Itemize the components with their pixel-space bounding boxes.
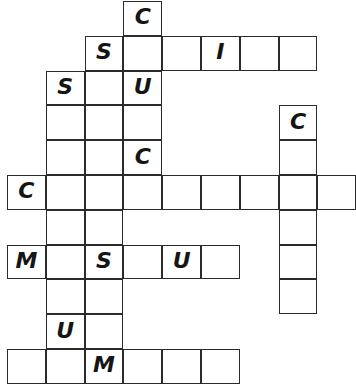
crossword-cell[interactable] <box>85 105 124 140</box>
crossword-cell-letter: S <box>57 76 73 98</box>
crossword-cell[interactable]: S <box>85 245 124 280</box>
crossword-cell-letter: M <box>93 354 115 376</box>
crossword-cell[interactable] <box>279 140 318 175</box>
crossword-cell[interactable] <box>85 71 124 106</box>
crossword-cell[interactable] <box>123 349 162 384</box>
crossword-cell[interactable]: M <box>85 349 124 384</box>
crossword-cell[interactable]: U <box>162 245 201 280</box>
crossword-cell[interactable] <box>85 140 124 175</box>
crossword-cell[interactable] <box>123 105 162 140</box>
crossword-cell[interactable] <box>123 245 162 280</box>
crossword-cell[interactable] <box>240 36 279 71</box>
crossword-cell-letter: U <box>56 320 74 342</box>
crossword-cell[interactable]: S <box>85 36 124 71</box>
crossword-cell[interactable] <box>123 36 162 71</box>
crossword-cell-letter: S <box>96 41 112 63</box>
crossword-cell[interactable] <box>85 314 124 349</box>
crossword-cell[interactable] <box>46 210 85 245</box>
crossword-cell[interactable]: C <box>7 175 46 210</box>
crossword-cell[interactable] <box>85 175 124 210</box>
crossword-cell-letter: C <box>135 146 151 168</box>
crossword-cell[interactable] <box>201 175 240 210</box>
crossword-cell-letter: S <box>96 250 112 272</box>
crossword-cell[interactable]: C <box>279 105 318 140</box>
crossword-cell[interactable] <box>317 175 356 210</box>
crossword-cell[interactable] <box>85 279 124 314</box>
crossword-cell[interactable]: I <box>201 36 240 71</box>
crossword-cell[interactable] <box>279 279 318 314</box>
crossword-cell[interactable] <box>85 210 124 245</box>
crossword-cell[interactable] <box>162 349 201 384</box>
crossword-cell[interactable] <box>46 279 85 314</box>
crossword-cell[interactable] <box>46 105 85 140</box>
crossword-cell[interactable] <box>279 175 318 210</box>
crossword-cell-letter: C <box>290 111 306 133</box>
crossword-cell[interactable] <box>201 349 240 384</box>
crossword-cell[interactable]: C <box>123 140 162 175</box>
crossword-cell[interactable]: M <box>7 245 46 280</box>
crossword-cell[interactable] <box>7 349 46 384</box>
crossword-cell-letter: U <box>134 76 152 98</box>
crossword-cell[interactable]: U <box>123 71 162 106</box>
crossword-cell[interactable] <box>46 349 85 384</box>
crossword-cell[interactable] <box>123 175 162 210</box>
crossword-cell[interactable]: U <box>46 314 85 349</box>
crossword-cell[interactable] <box>46 175 85 210</box>
crossword-cell[interactable] <box>279 36 318 71</box>
crossword-cell-letter: C <box>135 6 151 28</box>
crossword-cell[interactable] <box>162 36 201 71</box>
crossword-cell-letter: U <box>173 250 191 272</box>
crossword-cell[interactable] <box>201 245 240 280</box>
crossword-cell-letter: M <box>15 250 37 272</box>
crossword-cell[interactable] <box>46 245 85 280</box>
crossword-cell[interactable]: C <box>123 1 162 36</box>
crossword-cell[interactable] <box>279 245 318 280</box>
crossword-cell-letter: I <box>216 41 224 63</box>
crossword-cell[interactable] <box>46 140 85 175</box>
crossword-cell[interactable] <box>162 175 201 210</box>
crossword-cell-letter: C <box>18 180 34 202</box>
crossword-cell[interactable] <box>240 175 279 210</box>
crossword-cell[interactable] <box>279 210 318 245</box>
crossword-cell[interactable]: S <box>46 71 85 106</box>
